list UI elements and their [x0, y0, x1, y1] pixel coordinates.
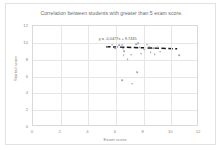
- x-tick-label: 4: [77, 129, 97, 134]
- chart-title: Correlation between students with greate…: [6, 10, 217, 16]
- scatter-point: [139, 47, 141, 49]
- scatter-point: [121, 79, 123, 81]
- scatter-point: [157, 46, 159, 48]
- x-tick-label: 10: [160, 129, 180, 134]
- scatter-point: [153, 47, 155, 49]
- x-gridline: [88, 26, 89, 125]
- x-gridline: [116, 26, 117, 125]
- scatter-point: [121, 45, 123, 47]
- scatter-point: [106, 46, 108, 48]
- x-gridline: [61, 26, 62, 125]
- scatter-point: [130, 54, 132, 56]
- y-gridline: [33, 77, 197, 78]
- scatter-point: [123, 50, 125, 52]
- x-gridline: [171, 26, 172, 125]
- scatter-point: [121, 44, 123, 46]
- chart-container: Correlation between students with greate…: [5, 3, 216, 145]
- x-gridline: [144, 26, 145, 125]
- y-gridline: [33, 93, 197, 94]
- scatter-point: [131, 83, 133, 85]
- scatter-point: [150, 51, 152, 53]
- y-axis-title: Started score: [13, 46, 18, 92]
- y-tick-label: 4: [6, 90, 28, 95]
- scatter-point: [111, 44, 113, 46]
- y-tick-label: 8: [6, 56, 28, 61]
- scatter-point: [154, 53, 156, 55]
- x-tick-label: 8: [133, 129, 153, 134]
- scatter-point: [140, 53, 142, 55]
- scatter-point: [144, 49, 146, 51]
- scatter-point: [127, 58, 129, 60]
- y-tick-label: 0: [6, 124, 28, 129]
- scatter-point: [137, 71, 139, 73]
- scatter-point: [137, 42, 139, 44]
- y-tick-label: 12: [6, 23, 28, 28]
- scatter-point: [159, 51, 161, 53]
- x-axis-title: Exam score: [32, 137, 198, 142]
- scatter-point: [123, 54, 125, 56]
- y-gridline: [33, 60, 197, 61]
- scatter-point: [114, 47, 116, 49]
- y-gridline: [33, 110, 197, 111]
- y-tick-label: 6: [6, 73, 28, 78]
- x-tick-label: 6: [105, 129, 125, 134]
- scatter-point: [178, 54, 180, 56]
- scatter-point: [148, 46, 150, 48]
- y-gridline: [33, 43, 197, 44]
- x-tick-label: 0: [22, 129, 42, 134]
- x-tick-label: 12: [188, 129, 208, 134]
- y-tick-label: 2: [6, 107, 28, 112]
- y-tick-label: 10: [6, 39, 28, 44]
- x-tick-label: 2: [50, 129, 70, 134]
- trendline-equation-label: y = -0.0477x + 9.7435: [99, 36, 137, 41]
